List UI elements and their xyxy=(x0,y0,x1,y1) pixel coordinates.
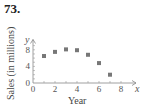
data-point xyxy=(86,53,90,57)
x-tick-label: 0 xyxy=(31,84,36,94)
x-variable-label: x xyxy=(134,83,140,94)
data-point xyxy=(53,50,57,54)
data-point xyxy=(75,48,79,52)
data-point xyxy=(42,54,46,58)
data-point xyxy=(97,61,101,65)
y-tick-label: 4 xyxy=(26,61,31,71)
x-tick-label: 8 xyxy=(119,84,124,94)
x-tick-label: 4 xyxy=(75,84,80,94)
data-point xyxy=(108,73,112,77)
x-tick-label: 6 xyxy=(97,84,102,94)
data-point xyxy=(64,47,68,51)
scatter-chart: 02468048xy xyxy=(0,0,152,111)
y-tick-label: 0 xyxy=(26,78,31,88)
y-tick-label: 8 xyxy=(26,45,31,55)
x-tick-label: 2 xyxy=(53,84,58,94)
y-variable-label: y xyxy=(24,34,30,45)
